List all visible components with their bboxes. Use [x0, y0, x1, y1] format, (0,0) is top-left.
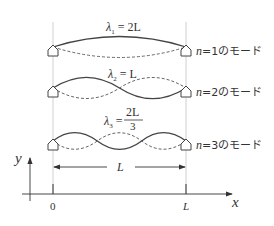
- mode-2-wavelength: λ2 = L: [107, 67, 137, 83]
- mode-3-caption: n=3のモード: [196, 138, 262, 152]
- mode-1-wavelength: λ1 = 2L: [105, 20, 141, 36]
- length-label: L: [116, 160, 124, 174]
- mode-3-fraction-numerator: 2L: [126, 105, 139, 119]
- mode-1-caption: n=1のモード: [196, 44, 262, 58]
- tick-0-label: 0: [50, 200, 56, 212]
- right-support-icon: [181, 139, 191, 150]
- left-support-icon: [48, 86, 58, 97]
- mode-1-solid-wave: [53, 37, 186, 48]
- mode-3-fraction-denominator: 3: [130, 120, 136, 132]
- mode-3-dashed-wave: [53, 133, 186, 150]
- mode-1-dashed-wave: [53, 47, 186, 58]
- standing-wave-diagram: λ1 = 2L λ2 = L λ3 = 2L 3 n=1のモード n=2のモード…: [0, 0, 274, 226]
- y-axis-label: y: [13, 150, 22, 166]
- mode-3-solid-wave: [53, 133, 186, 150]
- mode-3: [48, 133, 191, 150]
- x-axis-label: x: [231, 194, 239, 210]
- right-support-icon: [181, 86, 191, 97]
- right-support-icon: [181, 45, 191, 56]
- left-support-icon: [48, 45, 58, 56]
- tick-L-label: L: [182, 200, 189, 212]
- mode-1: [48, 37, 191, 58]
- mode-3-wavelength: λ3 =: [103, 114, 123, 130]
- left-support-icon: [48, 139, 58, 150]
- mode-2-caption: n=2のモード: [196, 85, 262, 99]
